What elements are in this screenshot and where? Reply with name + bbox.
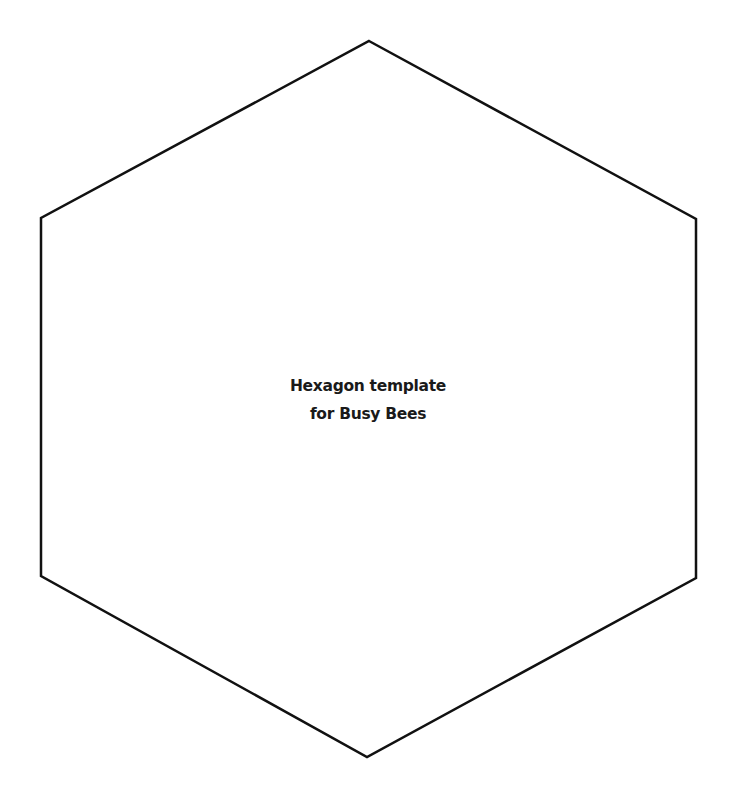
template-page: Hexagon template for Busy Bees bbox=[0, 0, 736, 802]
caption-line-2: for Busy Bees bbox=[0, 400, 736, 428]
template-caption: Hexagon template for Busy Bees bbox=[0, 372, 736, 428]
caption-line-1: Hexagon template bbox=[0, 372, 736, 400]
